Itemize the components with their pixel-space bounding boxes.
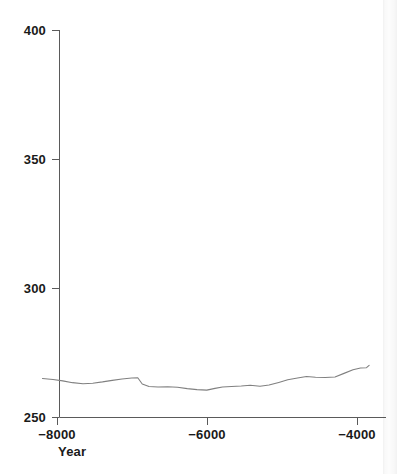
x-tick-label-8000: −8000 bbox=[12, 427, 102, 442]
y-tick-label-250: 250 bbox=[0, 410, 46, 425]
data-series-line bbox=[43, 365, 370, 390]
x-tick-label-6000: −6000 bbox=[162, 427, 252, 442]
line-chart-plot bbox=[0, 0, 397, 474]
chart-container: 400 350 300 250 −8000 −6000 −4000 Year bbox=[0, 0, 397, 474]
y-axis-ticks bbox=[52, 31, 60, 418]
x-axis-title: Year bbox=[58, 444, 86, 459]
y-tick-label-300: 300 bbox=[0, 281, 46, 296]
y-tick-label-400: 400 bbox=[0, 23, 46, 38]
x-axis-ticks bbox=[58, 418, 358, 426]
y-tick-label-350: 350 bbox=[0, 152, 46, 167]
page-edge-band bbox=[383, 0, 397, 474]
